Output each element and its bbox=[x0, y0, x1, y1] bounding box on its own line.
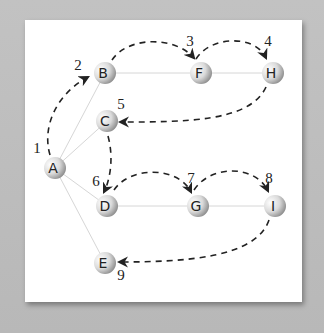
node-D: D bbox=[96, 195, 118, 217]
node-B: B bbox=[94, 62, 116, 84]
traversal-arrow-I-E bbox=[119, 220, 269, 262]
traversal-arrow-C-D bbox=[104, 136, 111, 192]
node-label: D bbox=[100, 198, 111, 214]
traversal-arrow-H-C bbox=[120, 87, 266, 122]
traversal-arrow-F-H bbox=[196, 41, 266, 59]
nodes-layer: ABCDEFGHI bbox=[44, 62, 286, 274]
traversal-graph: ABCDEFGHI 123456789 bbox=[0, 0, 324, 333]
node-label: H bbox=[266, 65, 277, 81]
node-G: G bbox=[187, 195, 209, 217]
visit-order-8: 8 bbox=[265, 170, 273, 186]
node-label: I bbox=[271, 198, 275, 214]
node-label: B bbox=[98, 65, 108, 81]
visit-order-1: 1 bbox=[33, 140, 41, 156]
node-E: E bbox=[94, 252, 116, 274]
visit-order-6: 6 bbox=[92, 173, 100, 189]
node-label: F bbox=[195, 65, 203, 81]
node-label: C bbox=[100, 113, 110, 129]
traversal-arrow-G-I bbox=[194, 171, 268, 191]
visit-order-3: 3 bbox=[186, 33, 194, 49]
visit-order-4: 4 bbox=[264, 33, 272, 49]
visit-order-7: 7 bbox=[187, 170, 195, 186]
order-labels-layer: 123456789 bbox=[33, 33, 273, 283]
node-I: I bbox=[264, 195, 286, 217]
traversal-arrow-B-F bbox=[112, 42, 194, 60]
visit-order-9: 9 bbox=[117, 267, 125, 283]
node-label: A bbox=[48, 160, 58, 176]
node-A: A bbox=[44, 157, 66, 179]
visit-order-5: 5 bbox=[117, 96, 125, 112]
edges-layer bbox=[55, 73, 275, 263]
visit-order-2: 2 bbox=[74, 57, 82, 73]
traversal-arrows-layer bbox=[48, 41, 269, 262]
node-label: E bbox=[99, 255, 108, 271]
node-F: F bbox=[190, 62, 212, 84]
node-label: G bbox=[191, 198, 202, 214]
traversal-arrow-D-G bbox=[114, 172, 191, 192]
node-H: H bbox=[262, 62, 284, 84]
node-C: C bbox=[96, 110, 118, 132]
